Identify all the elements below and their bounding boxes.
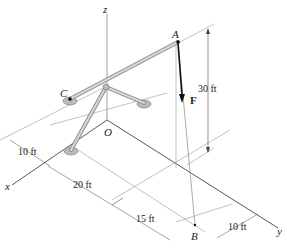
x-to-b-dimension-line xyxy=(48,166,170,240)
guide-line xyxy=(112,130,230,200)
force-arrowhead-icon xyxy=(179,94,185,103)
point-c xyxy=(68,97,72,101)
guide-line xyxy=(176,204,232,222)
point-b-label: B xyxy=(191,231,198,242)
z-axis-label: z xyxy=(103,4,107,15)
member-hub-right-highlight xyxy=(106,87,144,103)
hub-joint xyxy=(103,84,109,90)
height-dimension-label: 30 ft xyxy=(198,84,217,94)
member-ca-highlight xyxy=(70,42,178,99)
height-extension-line xyxy=(187,148,214,165)
arrowhead-icon xyxy=(206,28,210,34)
point-b xyxy=(194,224,196,226)
point-a-label: A xyxy=(172,29,179,40)
statics-diagram: z A C O B F 30 ft 10 ft 20 ft 15 ft 10 f… xyxy=(0,0,287,252)
y-offset-dimension-label: 10 ft xyxy=(228,222,247,232)
force-vector xyxy=(178,43,182,96)
arrowhead-icon xyxy=(206,147,210,153)
x-to-b-second-label: 15 ft xyxy=(136,214,155,224)
point-c-label: C xyxy=(60,88,67,99)
x-offset-dimension-label: 10 ft xyxy=(18,147,37,157)
x-to-b-first-label: 20 ft xyxy=(73,180,92,190)
force-label: F xyxy=(190,95,197,106)
point-o-label: O xyxy=(104,127,112,138)
x-axis-label: x xyxy=(5,181,10,192)
y-axis xyxy=(107,120,278,228)
y-axis-label: y xyxy=(277,226,282,237)
